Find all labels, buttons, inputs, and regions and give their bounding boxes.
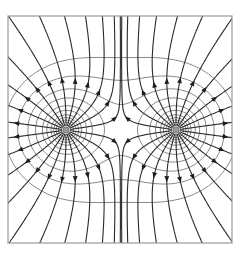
arrow-icon xyxy=(25,158,31,164)
arrow-icon xyxy=(211,158,217,164)
arrow-icon xyxy=(111,138,117,144)
field-diagram xyxy=(0,0,237,253)
field-diagram-svg xyxy=(0,0,237,253)
arrow-icon xyxy=(164,176,169,182)
field-line xyxy=(127,132,172,253)
field-line xyxy=(62,6,76,127)
arrow-icon xyxy=(13,134,19,139)
equipotential-curve xyxy=(18,76,225,184)
arrow-icon xyxy=(125,116,131,122)
arrow-icon xyxy=(164,78,169,84)
field-line xyxy=(0,132,62,159)
arrow-icon xyxy=(125,138,131,144)
field-line xyxy=(62,134,75,253)
field-line xyxy=(178,133,237,211)
equipotential-curve xyxy=(36,98,207,162)
arrow-icon xyxy=(13,121,19,126)
arrow-icon xyxy=(73,78,78,84)
arrow-icon xyxy=(104,100,109,106)
arrow-icon xyxy=(152,172,157,178)
arrow-icon xyxy=(85,172,90,178)
right-charge xyxy=(173,127,179,133)
field-line xyxy=(127,6,172,129)
arrow-icon xyxy=(152,82,157,88)
arrow-icon xyxy=(73,176,78,182)
arrow-icon xyxy=(222,134,228,139)
arrow-icon xyxy=(25,97,31,103)
arrow-icon xyxy=(222,121,228,126)
arrow-icons xyxy=(13,77,228,183)
field-line xyxy=(167,6,181,127)
left-charge xyxy=(63,127,69,133)
arrow-icon xyxy=(85,82,90,88)
arrow-icon xyxy=(211,97,217,103)
field-line xyxy=(0,133,63,183)
field-line xyxy=(178,48,237,126)
equipotential-curve xyxy=(54,118,189,143)
field-line xyxy=(70,132,115,253)
field-line xyxy=(0,101,62,128)
equipotential-curve xyxy=(28,89,214,171)
arrow-icon xyxy=(132,100,137,106)
arrow-icon xyxy=(111,116,117,122)
arrow-icon xyxy=(104,153,109,159)
equipotential-curve xyxy=(56,120,186,140)
field-line xyxy=(0,78,63,128)
field-line xyxy=(167,134,180,253)
arrow-icon xyxy=(132,153,137,159)
field-line xyxy=(70,6,115,129)
